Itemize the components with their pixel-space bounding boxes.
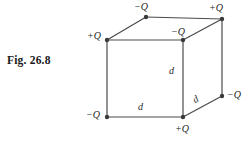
vertex-back-bottom-right [220,94,224,98]
charge-label-back-top-right: +Q [209,3,223,13]
vertex-back-top-left [144,15,148,19]
dimension-label-vertical-edge: d [169,66,174,76]
dimension-label-bottom-edge: d [138,102,143,112]
edge-depth-top-left [107,17,146,40]
edge-back-top [146,17,222,19]
charge-label-back-bottom-right: −Q [227,90,241,100]
charge-label-front-top-right: −Q [171,27,185,37]
cube-edges [107,17,222,117]
edge-depth-top-right [183,19,222,40]
edge-depth-bottom-right [183,96,222,117]
figure-container: Fig. 26.8 −Q +Q +Q −Q [0,0,251,143]
charge-label-front-bottom-left: −Q [86,110,100,120]
vertex-front-top-left [105,38,109,42]
charge-label-front-bottom-right: +Q [175,124,189,134]
charge-label-front-top-left: +Q [87,31,101,41]
cube-diagram-svg [0,0,251,143]
vertex-back-top-right [220,17,224,21]
vertex-front-bottom-left [105,115,109,119]
charge-label-back-top-left: −Q [134,2,148,12]
vertex-front-top-right [181,38,185,42]
vertex-front-bottom-right [181,115,185,119]
